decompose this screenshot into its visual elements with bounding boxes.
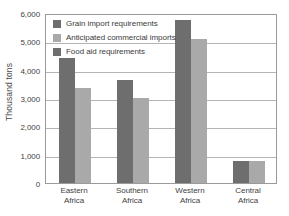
y-axis-tick-labels: 01,0002,0003,0004,0005,0006,000 — [14, 0, 43, 190]
y-tick-label: 1,000 — [20, 151, 40, 160]
bar — [75, 88, 91, 183]
bar — [133, 98, 149, 183]
legend: Grain import requirementsAnticipated com… — [53, 17, 176, 59]
y-tick-label: 2,000 — [20, 123, 40, 132]
legend-item: Anticipated commercial imports — [53, 31, 176, 44]
x-tick-label-line: Africa — [161, 196, 219, 206]
x-tick-label: EasternAfrica — [45, 186, 103, 206]
legend-label: Grain import requirements — [66, 19, 158, 28]
y-tick-label: 4,000 — [20, 66, 40, 75]
legend-label: Anticipated commercial imports — [66, 33, 176, 42]
legend-item: Food aid requirements — [53, 45, 176, 58]
x-tick-label: WesternAfrica — [161, 186, 219, 206]
y-axis-title-text: Thousand tons — [4, 63, 14, 121]
bar — [233, 161, 249, 183]
bar-chart: Thousand tons 01,0002,0003,0004,0005,000… — [0, 0, 289, 216]
legend-swatch-icon — [53, 48, 61, 56]
legend-swatch-icon — [53, 34, 61, 42]
bar-group — [220, 15, 277, 183]
bar — [191, 39, 207, 184]
x-tick-label-line: Africa — [45, 196, 103, 206]
x-tick-label: SouthernAfrica — [103, 186, 161, 206]
legend-swatch-icon — [53, 20, 61, 28]
x-tick-label-line: Africa — [103, 196, 161, 206]
x-tick-label-line: Central — [235, 186, 260, 195]
y-tick-label: 5,000 — [20, 38, 40, 47]
x-axis-tick-labels: EasternAfricaSouthernAfricaWesternAfrica… — [45, 186, 277, 214]
bar — [249, 161, 265, 183]
x-tick-label-line: Eastern — [60, 186, 87, 195]
y-tick-label: 0 — [36, 180, 40, 189]
bar — [175, 20, 191, 183]
x-tick-label-line: Southern — [116, 186, 148, 195]
legend-item: Grain import requirements — [53, 17, 176, 30]
x-tick-label-line: Western — [175, 186, 204, 195]
bar — [117, 80, 133, 183]
plot-area: Grain import requirementsAnticipated com… — [45, 14, 277, 184]
y-tick-label: 6,000 — [20, 10, 40, 19]
x-tick-label: CentralAfrica — [219, 186, 277, 206]
legend-label: Food aid requirements — [66, 47, 145, 56]
bar — [59, 58, 75, 183]
x-tick-label-line: Africa — [219, 196, 277, 206]
y-tick-label: 3,000 — [20, 95, 40, 104]
